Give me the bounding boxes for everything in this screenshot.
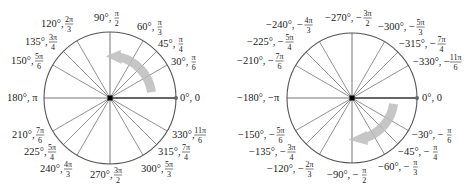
angle-degree-text: −240°, − <box>266 19 303 30</box>
angle-label: 45°, π4 <box>158 35 183 54</box>
angle-degree-text: −270°, − <box>325 12 362 23</box>
angle-degree-text: −315°, − <box>399 38 436 49</box>
svg-text:5π: 5π <box>277 126 285 135</box>
radian-fraction: 7π6 <box>36 126 44 145</box>
angle-label: −45°, −π4 <box>398 143 438 162</box>
svg-text:5π: 5π <box>165 160 173 169</box>
angle-degree-text: 315°, <box>158 146 181 157</box>
angle-label: 210°, 7π6 <box>12 126 44 145</box>
negative-angles-circle: 0°, 0−30°, −π6−45°, −π4−60°, −π3−90°, −π… <box>237 9 461 185</box>
svg-text:5π: 5π <box>35 52 43 61</box>
angle-label: −90°, −π2 <box>327 166 367 185</box>
svg-text:3: 3 <box>413 168 417 177</box>
svg-text:6: 6 <box>198 136 202 145</box>
angle-degree-text: −300°, − <box>378 21 415 32</box>
svg-text:3: 3 <box>158 28 162 37</box>
svg-text:3: 3 <box>419 28 423 37</box>
svg-text:π: π <box>413 158 417 167</box>
angle-degree-text: 0°, 0 <box>422 92 442 103</box>
angle-degree-text: 60°, <box>137 21 154 32</box>
svg-text:4: 4 <box>179 45 183 54</box>
angle-degree-text: −90°, − <box>327 169 359 180</box>
radian-fraction: 5π3 <box>165 160 173 179</box>
angle-degree-text: 300°, <box>141 163 164 174</box>
radian-fraction: π2 <box>362 166 367 185</box>
angle-degree-text: −45°, − <box>398 146 430 157</box>
angle-degree-text: −120°, − <box>267 163 304 174</box>
angle-degree-text: 240°, <box>40 163 63 174</box>
angle-label: 180°, π <box>7 92 38 103</box>
svg-text:2: 2 <box>366 19 370 28</box>
svg-text:π: π <box>362 166 366 175</box>
angle-degree-text: −180°, −π <box>237 92 280 103</box>
angle-degree-text: −30°, − <box>412 129 444 140</box>
svg-text:2π: 2π <box>306 160 314 169</box>
angle-label: −30°, −π6 <box>412 126 452 145</box>
angle-degree-text: 225°, <box>24 146 47 157</box>
angle-degree-text: −135°, − <box>249 146 286 157</box>
svg-text:π: π <box>433 143 437 152</box>
svg-text:4: 4 <box>50 153 54 162</box>
radian-fraction: π3 <box>413 158 418 177</box>
angle-degree-text: 330°, <box>172 129 195 140</box>
svg-text:4: 4 <box>433 153 437 162</box>
svg-text:6: 6 <box>454 63 458 72</box>
angle-degree-text: 150°, <box>11 55 34 66</box>
svg-text:6: 6 <box>38 136 42 145</box>
radian-fraction: 5π6 <box>35 52 43 71</box>
radian-fraction: 4π3 <box>304 16 312 35</box>
angle-label: −330°, −11π6 <box>413 53 461 72</box>
radian-fraction: 3π2 <box>363 9 371 28</box>
angle-label: 0°, 0 <box>180 92 200 103</box>
svg-text:3π: 3π <box>288 143 296 152</box>
radian-fraction: 5π4 <box>285 33 293 52</box>
angle-degree-text: 0°, 0 <box>180 92 200 103</box>
angle-label: 120°, 2π3 <box>41 15 73 34</box>
radian-fraction: 4π3 <box>64 160 72 179</box>
angle-degree-text: 45°, <box>158 38 175 49</box>
svg-text:4: 4 <box>184 153 188 162</box>
svg-text:5π: 5π <box>417 18 425 27</box>
angle-label: 150°, 5π6 <box>11 52 43 71</box>
rotation-arrow-icon <box>348 104 393 145</box>
svg-text:6: 6 <box>447 136 451 145</box>
terminal-point-dot <box>415 96 419 100</box>
radian-fraction: π6 <box>192 53 197 72</box>
svg-text:3: 3 <box>67 25 71 34</box>
angle-degree-text: 270°, <box>90 169 113 180</box>
svg-text:11π: 11π <box>194 126 206 135</box>
svg-text:3π: 3π <box>49 33 57 42</box>
angle-label: 240°, 4π3 <box>40 160 72 179</box>
radian-fraction: 11π6 <box>450 53 462 72</box>
radian-fraction: 2π3 <box>305 160 313 179</box>
svg-text:3: 3 <box>66 170 70 179</box>
angle-label: −315°, −7π4 <box>399 35 446 54</box>
svg-text:6: 6 <box>192 63 196 72</box>
radian-fraction: π3 <box>158 18 163 37</box>
radian-fraction: π4 <box>179 35 184 54</box>
radian-fraction: 11π6 <box>194 126 206 145</box>
svg-text:3π: 3π <box>364 9 372 18</box>
angle-label: −270°, −3π2 <box>325 9 372 28</box>
radian-fraction: 7π6 <box>275 52 283 71</box>
angle-degree-text: 135°, <box>25 36 48 47</box>
svg-text:4: 4 <box>51 43 55 52</box>
svg-text:4π: 4π <box>305 16 313 25</box>
svg-text:6: 6 <box>278 62 282 71</box>
radian-fraction: π4 <box>433 143 438 162</box>
angle-label: −150°, −5π6 <box>238 126 285 145</box>
angle-degree-text: 180°, π <box>7 92 38 103</box>
svg-text:7π: 7π <box>182 143 190 152</box>
radian-fraction: 5π4 <box>48 143 56 162</box>
radian-fraction: 2π3 <box>65 15 73 34</box>
angle-label: 0°, 0 <box>422 92 442 103</box>
terminal-point-dot <box>174 96 178 100</box>
angle-degree-text: 30°, <box>171 56 188 67</box>
angle-label: −180°, −π <box>237 92 280 103</box>
angle-label: −120°, −2π3 <box>267 160 314 179</box>
radian-fraction: 3π4 <box>49 33 57 52</box>
svg-text:11π: 11π <box>450 53 462 62</box>
radian-fraction: π6 <box>447 126 452 145</box>
angle-degree-text: −225°, − <box>247 36 284 47</box>
origin-marker <box>108 96 113 101</box>
